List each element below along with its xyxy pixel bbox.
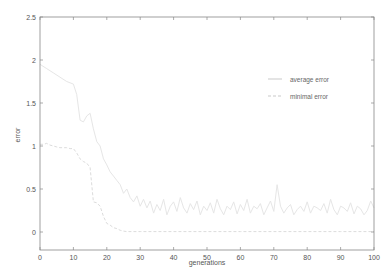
x-tick-label: 30 <box>136 254 144 261</box>
y-axis-ticks: 00.511.522.5 <box>26 14 374 236</box>
legend-label-average-error: average error <box>290 76 330 84</box>
y-tick-label: 1.5 <box>26 100 36 107</box>
x-tick-label: 20 <box>103 254 111 261</box>
series-line-average-error <box>40 64 374 215</box>
x-axis-ticks: 0102030405060708090100 <box>38 17 380 261</box>
plot-frame <box>40 17 374 250</box>
series-line-minimal-error <box>40 143 374 231</box>
x-tick-label: 10 <box>70 254 78 261</box>
y-tick-label: 2 <box>32 57 36 64</box>
x-tick-label: 70 <box>270 254 278 261</box>
x-tick-label: 100 <box>368 254 380 261</box>
y-tick-label: 2.5 <box>26 14 36 21</box>
line-chart: 0102030405060708090100 00.511.522.5 gene… <box>0 0 390 271</box>
x-tick-label: 0 <box>38 254 42 261</box>
x-tick-label: 90 <box>337 254 345 261</box>
y-tick-label: 0.5 <box>26 186 36 193</box>
x-tick-label: 60 <box>237 254 245 261</box>
legend: average error minimal error <box>268 76 330 100</box>
x-axis-label: generations <box>189 259 226 267</box>
y-tick-label: 0 <box>32 229 36 236</box>
y-axis-label: error <box>14 127 21 142</box>
y-tick-label: 1 <box>32 143 36 150</box>
plot-area <box>40 64 374 231</box>
legend-label-minimal-error: minimal error <box>290 93 329 100</box>
x-tick-label: 40 <box>170 254 178 261</box>
x-tick-label: 80 <box>303 254 311 261</box>
